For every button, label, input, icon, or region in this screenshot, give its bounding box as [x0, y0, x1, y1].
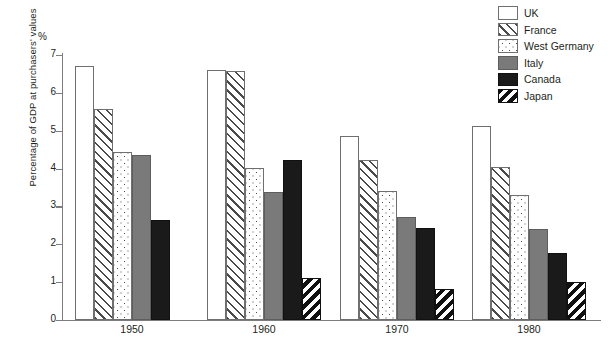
bar-west-germany-1960	[245, 168, 264, 320]
bar-italy-1960	[264, 192, 283, 320]
y-tick-mark	[56, 55, 62, 56]
x-axis-label-1980: 1980	[472, 323, 586, 335]
x-axis-label-1970: 1970	[340, 323, 454, 335]
bar-france-1970	[359, 160, 378, 320]
legend-label: France	[524, 24, 557, 36]
bar-uk-1950	[75, 66, 94, 320]
y-axis-title: Percentage of GDP at purchasers' values	[27, 0, 38, 213]
legend-swatch-icon	[498, 6, 518, 20]
y-tick-label: 7	[26, 48, 56, 59]
legend-swatch-icon	[498, 23, 518, 37]
bar-group-1970: 1970	[340, 53, 454, 320]
legend-item-japan[interactable]: Japan	[498, 89, 594, 103]
y-tick-mark	[56, 93, 62, 94]
y-tick-label: 1	[26, 275, 56, 286]
legend: UKFranceWest GermanyItalyCanadaJapan	[498, 6, 594, 103]
bar-italy-1980	[529, 229, 548, 320]
y-tick-label: 0	[26, 313, 56, 324]
bar-uk-1960	[207, 70, 226, 320]
legend-swatch-icon	[498, 56, 518, 70]
bar-japan-1980	[567, 282, 586, 320]
legend-item-uk[interactable]: UK	[498, 6, 594, 20]
bar-italy-1950	[132, 155, 151, 320]
x-axis-label-1950: 1950	[75, 323, 189, 335]
y-tick-mark	[56, 131, 62, 132]
y-tick-mark	[56, 169, 62, 170]
legend-item-west-germany[interactable]: West Germany	[498, 39, 594, 53]
y-tick-label: 2	[26, 237, 56, 248]
y-tick-label: 3	[26, 199, 56, 210]
bar-japan-1960	[302, 278, 321, 320]
bar-uk-1980	[472, 126, 491, 320]
y-tick-mark	[56, 320, 62, 321]
legend-swatch-icon	[498, 73, 518, 87]
bar-west-germany-1970	[378, 191, 397, 320]
bar-italy-1970	[397, 217, 416, 320]
legend-swatch-icon	[498, 39, 518, 53]
bar-group-1960: 1960	[207, 53, 321, 320]
bar-uk-1970	[340, 136, 359, 320]
y-tick-mark	[56, 244, 62, 245]
legend-label: Italy	[524, 57, 543, 69]
bar-west-germany-1980	[510, 195, 529, 320]
bar-canada-1950	[151, 220, 170, 320]
y-tick-label: 4	[26, 162, 56, 173]
bar-france-1960	[226, 71, 245, 320]
y-axis-line	[62, 53, 63, 321]
legend-label: UK	[524, 7, 539, 19]
y-tick-mark	[56, 206, 62, 207]
legend-label: West Germany	[524, 40, 594, 52]
bar-japan-1970	[435, 289, 454, 320]
legend-label: Japan	[524, 90, 553, 102]
legend-swatch-icon	[498, 89, 518, 103]
legend-item-italy[interactable]: Italy	[498, 56, 594, 70]
bar-chart: Percentage of GDP at purchasers' values …	[0, 0, 613, 352]
percent-unit-label: %	[38, 31, 47, 42]
legend-item-canada[interactable]: Canada	[498, 72, 594, 86]
bar-west-germany-1950	[113, 152, 132, 320]
bar-group-1950: 1950	[75, 53, 189, 320]
bar-france-1950	[94, 109, 113, 320]
y-tick-label: 5	[26, 124, 56, 135]
legend-label: Canada	[524, 73, 561, 85]
bar-canada-1980	[548, 253, 567, 320]
y-tick-label: 6	[26, 86, 56, 97]
bar-canada-1970	[416, 228, 435, 320]
x-axis-line	[62, 320, 601, 321]
bar-france-1980	[491, 167, 510, 320]
legend-item-france[interactable]: France	[498, 23, 594, 37]
bar-canada-1960	[283, 160, 302, 320]
x-axis-label-1960: 1960	[207, 323, 321, 335]
y-tick-mark	[56, 282, 62, 283]
